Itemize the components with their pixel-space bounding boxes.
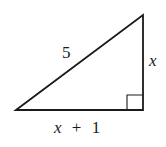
vertical-leg-label: x: [148, 51, 157, 70]
triangle: [16, 15, 143, 110]
horizontal-leg-label: x + 1: [53, 118, 100, 137]
horizontal-leg-op: +: [72, 118, 82, 137]
horizontal-leg-num: 1: [92, 118, 101, 137]
right-triangle-diagram: 5 x x + 1: [0, 0, 166, 147]
right-angle-marker: [127, 95, 143, 110]
horizontal-leg-var: x: [53, 118, 62, 137]
hypotenuse-label: 5: [62, 43, 71, 62]
